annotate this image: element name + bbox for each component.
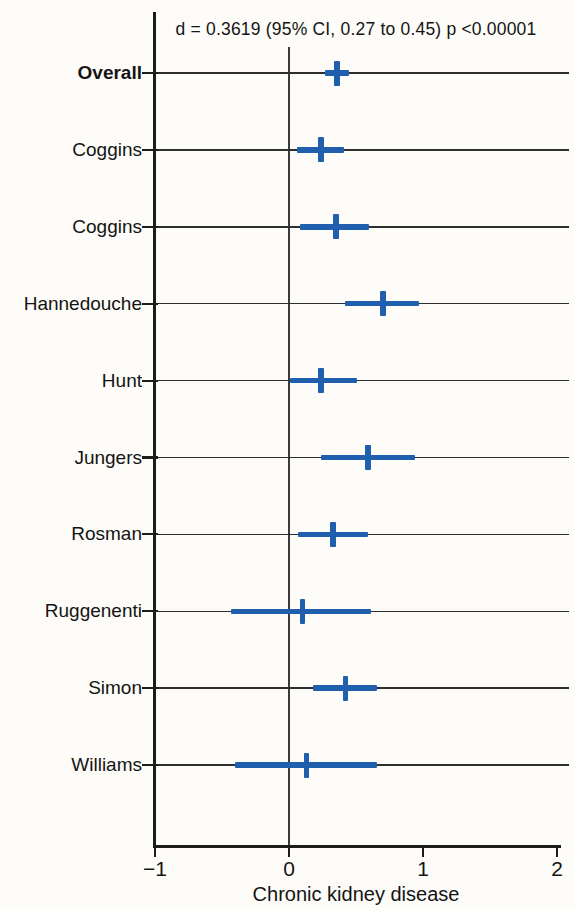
effect-size-marker [380, 291, 386, 316]
effect-size-marker [333, 214, 339, 239]
row-axis-tick [142, 380, 158, 382]
study-label: Simon [0, 677, 142, 699]
x-axis-tick [422, 848, 424, 857]
x-axis-line [153, 845, 561, 848]
row-axis-tick [142, 533, 158, 535]
row-axis-tick [142, 610, 158, 612]
effect-size-marker [304, 753, 310, 778]
x-axis-tick [288, 848, 290, 857]
forest-plot-figure: d = 0.3619 (95% CI, 0.27 to 0.45) p <0.0… [0, 0, 574, 908]
row-axis-tick [142, 456, 158, 458]
effect-size-marker [318, 368, 324, 393]
plot-title: d = 0.3619 (95% CI, 0.27 to 0.45) p <0.0… [150, 19, 562, 40]
study-label: Ruggenenti [0, 600, 142, 622]
study-label: Williams [0, 754, 142, 776]
row-axis-tick [142, 303, 158, 305]
effect-size-marker [343, 676, 349, 701]
row-axis-tick [142, 226, 158, 228]
row-axis-tick [142, 72, 158, 74]
x-axis-title: Chronic kidney disease [150, 883, 562, 906]
row-axis-tick [142, 687, 158, 689]
effect-size-marker [334, 61, 340, 86]
row-line [155, 72, 569, 74]
study-label: Hunt [0, 370, 142, 392]
zero-reference-line [288, 47, 290, 847]
study-label: Overall [0, 62, 142, 84]
x-tick-label: 2 [527, 857, 574, 881]
study-label: Hannedouche [0, 293, 142, 315]
study-label: Jungers [0, 447, 142, 469]
study-label: Coggins [0, 139, 142, 161]
x-tick-label: 0 [259, 857, 319, 881]
x-tick-label: −1 [125, 857, 185, 881]
study-label: Rosman [0, 523, 142, 545]
row-axis-tick [142, 764, 158, 766]
x-axis-tick [154, 848, 156, 857]
row-line [155, 380, 569, 382]
y-axis-line [153, 12, 156, 847]
row-line [155, 149, 569, 151]
effect-size-marker [300, 599, 306, 624]
x-tick-label: 1 [393, 857, 453, 881]
effect-size-marker [330, 522, 336, 547]
study-label: Coggins [0, 216, 142, 238]
effect-size-marker [318, 137, 324, 162]
row-axis-tick [142, 149, 158, 151]
x-axis-tick [556, 848, 558, 857]
effect-size-marker [365, 445, 371, 470]
